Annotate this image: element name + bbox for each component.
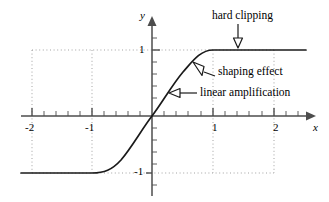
shaping-effect-annotation: shaping effect: [218, 66, 283, 78]
x-tick-label-pos1: 1: [212, 122, 218, 133]
shaping-effect-arrow: [193, 62, 215, 76]
x-tick-label-neg2: -2: [25, 122, 34, 133]
plot-canvas: [0, 0, 329, 202]
y-tick-label-neg1: -1: [134, 166, 143, 177]
y-axis-label: y: [140, 10, 145, 21]
y-axis-arrowhead: [148, 16, 157, 26]
hard-clipping-arrow: [234, 24, 243, 48]
axes: [21, 16, 316, 196]
x-tick-label-neg1: -1: [85, 122, 94, 133]
x-tick-label-pos2: 2: [273, 122, 279, 133]
y-axis-major-ticks: [146, 50, 160, 173]
x-axis-label: x: [313, 122, 318, 133]
hard-clipping-annotation: hard clipping: [212, 10, 273, 22]
linear-amplification-annotation: linear amplification: [200, 87, 290, 99]
linear-amplification-arrow: [169, 89, 197, 98]
x-axis-arrowhead: [306, 112, 316, 121]
transfer-curve-figure: -2 -1 1 2 1 -1 x y hard clipping shaping…: [0, 0, 329, 202]
y-tick-label-pos1: 1: [139, 44, 145, 55]
